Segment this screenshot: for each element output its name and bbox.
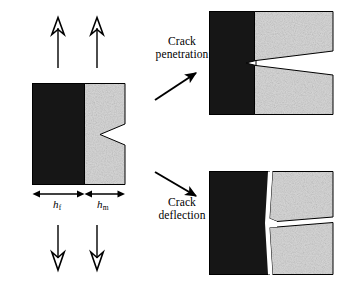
dimension-h-m [85, 191, 126, 198]
caption-crack-penetration: Crack penetration [140, 35, 224, 60]
penetration-arrow [155, 73, 196, 100]
bimaterial-specimen [33, 18, 126, 271]
load-arrow-bottom-right [91, 225, 103, 270]
caption-deflection-line1: Crack [140, 196, 224, 209]
specimen-light-layer [85, 84, 126, 185]
dimension-label-h-m: hm [97, 198, 108, 210]
penetration-panel [210, 12, 334, 115]
deflection-arrow [155, 172, 196, 196]
caption-penetration-line2: penetration [140, 48, 224, 61]
dimension-h-f [33, 191, 85, 198]
load-arrow-top-right [91, 18, 103, 69]
caption-penetration-line1: Crack [140, 35, 224, 48]
figure-canvas: Crack penetration versus crack deflectio… [0, 0, 338, 284]
caption-crack-deflection: Crack deflection [140, 196, 224, 221]
load-arrow-bottom-left [52, 225, 64, 270]
load-arrow-top-left [52, 18, 64, 69]
caption-deflection-line2: deflection [140, 209, 224, 222]
dimension-label-h-f: hf [53, 198, 61, 210]
specimen-dark-layer [33, 84, 85, 185]
deflection-panel [210, 172, 334, 275]
